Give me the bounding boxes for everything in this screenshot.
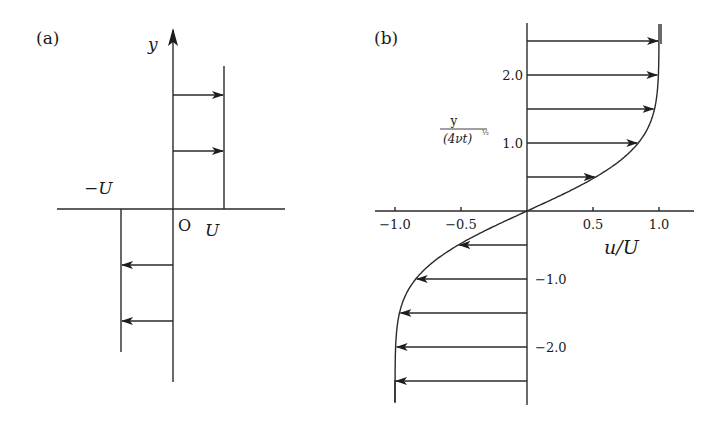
pos-u-label: U — [205, 220, 220, 240]
y-tick-label: −2.0 — [535, 340, 567, 355]
panel-b: (b) −1.0−0.50.51.0 2.01.0−1.0−2.0 u/U y … — [374, 23, 694, 405]
y-label-numerator: y — [450, 114, 458, 128]
shear-layer-figure: (a) y −U O U (b) −1.0−0.50.51.0 2.01.0−1… — [0, 0, 721, 425]
x-tick-label: −1.0 — [379, 217, 411, 232]
origin-label: O — [178, 216, 191, 235]
panel-b-label: (b) — [374, 28, 398, 48]
y-tick-label: −1.0 — [535, 272, 567, 287]
x-tick-label: 1.0 — [649, 217, 670, 232]
y-label-exponent: ½ — [482, 129, 489, 137]
y-tick-label: 2.0 — [502, 68, 523, 83]
x-axis-label-b: u/U — [604, 236, 640, 258]
y-label-denominator: (4νt) — [443, 132, 472, 146]
y-axis-label-b: y (4νt) ½ — [440, 114, 489, 146]
x-tick-label: −0.5 — [445, 217, 477, 232]
x-tick-label: 0.5 — [583, 217, 604, 232]
neg-u-label: −U — [84, 178, 113, 198]
panel-a-label: (a) — [36, 28, 59, 48]
y-axis-label-a: y — [147, 34, 158, 54]
y-tick-label: 1.0 — [502, 136, 523, 151]
panel-a: (a) y −U O U — [36, 28, 285, 382]
